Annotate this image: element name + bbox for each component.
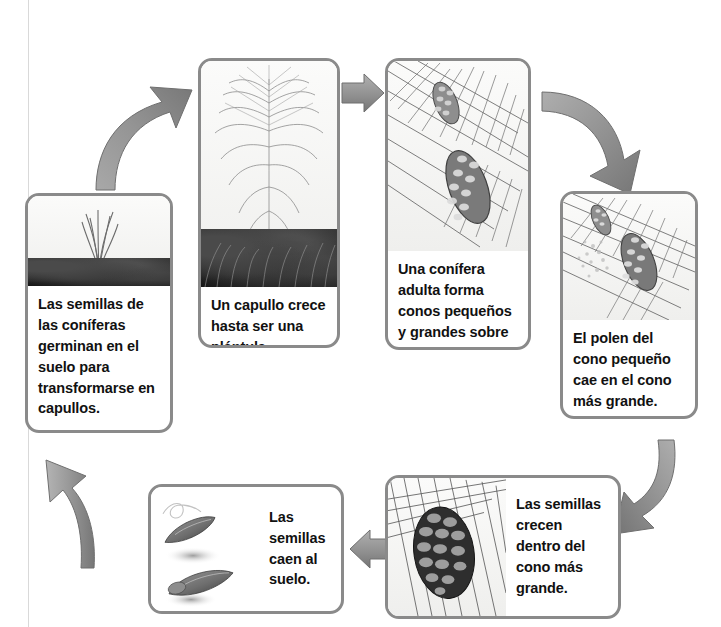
seedling-sprouting-in-soil-image bbox=[28, 196, 170, 286]
step-4-caption-text: El polen del cono pequeño cae en el cono… bbox=[573, 328, 686, 412]
step-2-caption-text: Un capullo crece hasta ser una plántula. bbox=[211, 295, 328, 348]
arrow-pollen-to-seeds bbox=[612, 438, 692, 548]
arrow-adult-to-pollen bbox=[538, 88, 650, 198]
step-3-caption-text: Una conífera adulta forma conos pequeños… bbox=[398, 259, 519, 350]
step-card-1[interactable]: Las semillas de las coníferas germinan e… bbox=[25, 193, 173, 433]
arrow-seedling-to-sapling bbox=[88, 82, 196, 194]
step-card-6[interactable]: Las semillas caen al suelo. bbox=[148, 484, 344, 614]
arrow-sapling-to-adult bbox=[340, 72, 386, 114]
pollen-falling-from-small-cone-onto-large-cone-image bbox=[563, 194, 695, 320]
step-card-5[interactable]: Las semillas crecen dentro del cono más … bbox=[385, 475, 621, 619]
step-2-caption: Un capullo crece hasta ser una plántula. bbox=[201, 287, 337, 348]
step-1-caption-text: Las semillas de las coníferas germinan e… bbox=[38, 294, 161, 419]
large-cone-shape bbox=[437, 145, 499, 229]
young-pine-sapling-in-grass-image bbox=[201, 61, 337, 287]
step-6-caption: Las semillas caen al suelo. bbox=[259, 487, 341, 611]
step-card-3[interactable]: Una conífera adulta forma conos pequeños… bbox=[385, 58, 531, 350]
step-6-caption-text: Las semillas caen al suelo. bbox=[269, 507, 332, 591]
large-cone-shape bbox=[408, 503, 481, 602]
step-1-caption: Las semillas de las coníferas germinan e… bbox=[28, 286, 170, 430]
step-3-caption: Una conífera adulta forma conos pequeños… bbox=[388, 251, 528, 350]
step-4-caption: El polen del cono pequeño cae en el cono… bbox=[563, 320, 695, 419]
pine-branch-with-small-and-large-cones-image bbox=[388, 61, 528, 251]
pollen-cloud bbox=[578, 241, 609, 278]
small-cone-shape bbox=[587, 202, 615, 238]
small-cone-shape bbox=[428, 78, 465, 127]
mature-pine-cone-with-seeds-image bbox=[388, 478, 506, 616]
step-card-2[interactable]: Un capullo crece hasta ser una plántula. bbox=[198, 58, 340, 348]
step-5-caption: Las semillas crecen dentro del cono más … bbox=[506, 478, 618, 616]
life-cycle-diagram: Las semillas de las coníferas germinan e… bbox=[0, 0, 721, 627]
step-card-4[interactable]: El polen del cono pequeño cae en el cono… bbox=[560, 191, 698, 419]
step-5-caption-text: Las semillas crecen dentro del cono más … bbox=[516, 494, 609, 598]
arrow-falling-to-seedling bbox=[38, 452, 108, 572]
winged-pine-seeds-falling-image bbox=[151, 487, 259, 611]
